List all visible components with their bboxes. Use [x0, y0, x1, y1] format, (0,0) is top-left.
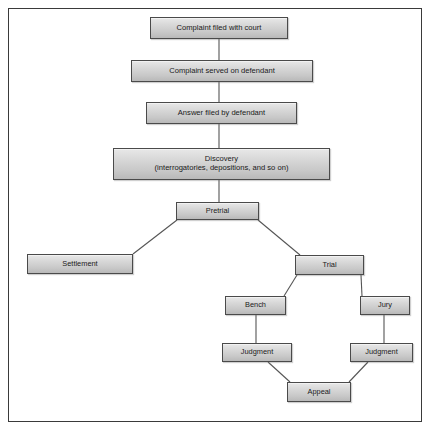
- node-appeal[interactable]: Appeal: [287, 382, 351, 402]
- node-label: Complaint served on defendant: [169, 67, 275, 76]
- node-label: Appeal: [307, 388, 330, 397]
- node-label: Judgment: [241, 348, 273, 357]
- node-judgment-bench[interactable]: Judgment: [222, 343, 292, 362]
- node-label: Settlement: [62, 260, 97, 269]
- node-pretrial[interactable]: Pretrial: [176, 202, 259, 220]
- node-discovery[interactable]: Discovery (interrogatories, depositions,…: [113, 148, 330, 180]
- node-bench[interactable]: Bench: [225, 296, 286, 315]
- node-label: Bench: [245, 301, 266, 310]
- node-complaint-filed-with-court[interactable]: Complaint filed with court: [150, 17, 288, 39]
- node-label: Trial: [322, 261, 336, 270]
- node-label: Judgment: [365, 348, 397, 357]
- node-label: Complaint filed with court: [177, 24, 262, 33]
- node-complaint-served-on-defendant[interactable]: Complaint served on defendant: [131, 60, 313, 82]
- diagram-canvas: Complaint filed with court Complaint ser…: [0, 0, 435, 436]
- node-answer-filed-by-defendant[interactable]: Answer filed by defendant: [146, 102, 297, 124]
- node-judgment-jury[interactable]: Judgment: [350, 343, 413, 362]
- node-jury[interactable]: Jury: [360, 296, 410, 315]
- node-label: Jury: [378, 301, 392, 310]
- node-trial[interactable]: Trial: [295, 255, 364, 275]
- node-label-line2: (interrogatories, depositions, and so on…: [155, 164, 289, 173]
- node-settlement[interactable]: Settlement: [27, 254, 133, 274]
- node-label: Pretrial: [206, 207, 229, 216]
- node-label: Answer filed by defendant: [178, 109, 265, 118]
